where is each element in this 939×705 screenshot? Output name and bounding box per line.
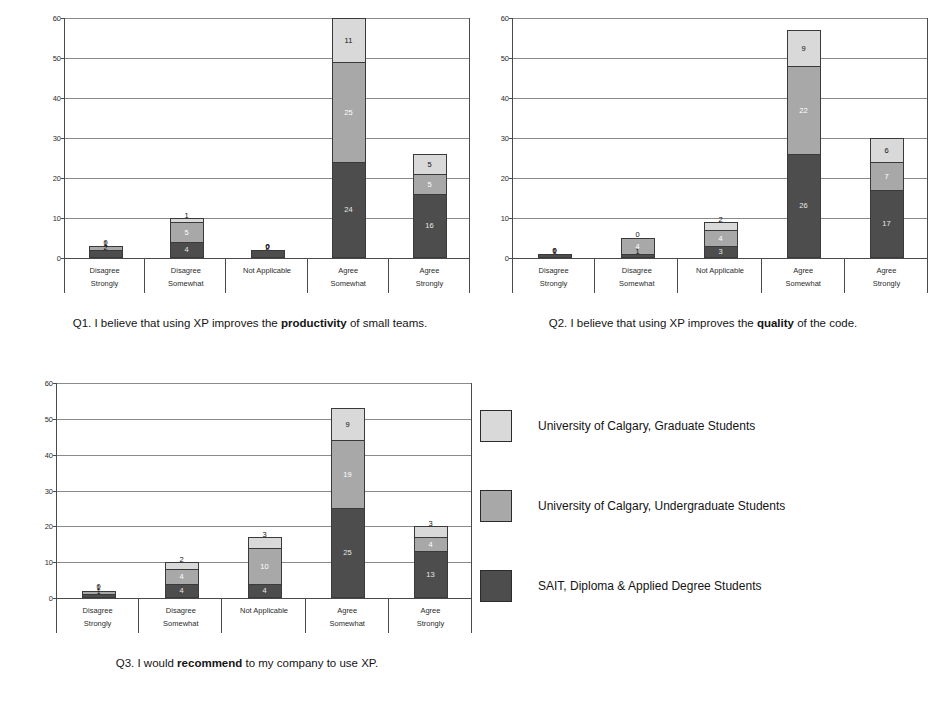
stacked-bar[interactable]: 3413 <box>414 526 448 598</box>
x-axis-label-1: DisagreeSomewhat <box>139 599 222 639</box>
bar-segment[interactable]: 10 <box>248 548 282 584</box>
bar-segment[interactable]: 4 <box>165 569 199 583</box>
x-axis-label-line1: Disagree <box>512 264 595 277</box>
bar-slot: 154 <box>146 18 227 258</box>
stacked-bar[interactable]: 002 <box>251 250 285 258</box>
bar-value-label: 17 <box>882 220 890 228</box>
bar-segment[interactable]: 2 <box>165 562 199 569</box>
bar-segment[interactable]: 2 <box>251 250 285 258</box>
bar-segment[interactable]: 5 <box>413 174 447 194</box>
x-axis-label-1: DisagreeSomewhat <box>595 259 678 299</box>
bar-value-label: 7 <box>884 173 888 181</box>
bar-value-label: 5 <box>427 161 431 169</box>
legend-item[interactable]: University of Calgary, Graduate Students <box>480 410 910 442</box>
x-axis-label-line1: Agree <box>306 604 389 617</box>
bar-group: 0121540021125245516 <box>65 18 470 258</box>
stacked-bar[interactable]: 5516 <box>413 154 447 258</box>
bar-value-label: 2 <box>718 216 722 224</box>
caption-q2: Q2. I believe that using XP improves the… <box>478 315 928 331</box>
bar-segment[interactable]: 13 <box>414 551 448 598</box>
bar-value-label: 26 <box>799 202 807 210</box>
x-axis-label-3: AgreeSomewhat <box>306 599 389 639</box>
bar-value-label: 16 <box>425 222 433 230</box>
bar-segment[interactable]: 3 <box>704 246 738 258</box>
bar-segment[interactable]: 3 <box>414 526 448 537</box>
bar-slot: 5516 <box>389 18 470 258</box>
bar-segment[interactable]: 22 <box>787 66 821 154</box>
stacked-bar[interactable]: 91925 <box>331 408 365 598</box>
stacked-bar[interactable]: 244 <box>165 562 199 598</box>
x-axis-label-line2: Somewhat <box>595 277 678 290</box>
bar-segment[interactable]: 1 <box>621 254 655 258</box>
y-tick-label-40: 40 <box>45 450 53 459</box>
bar-segment[interactable]: 11 <box>332 18 366 62</box>
swatch-sait <box>480 570 512 602</box>
stacked-bar[interactable]: 011 <box>82 591 116 598</box>
stacked-bar[interactable]: 041 <box>621 238 655 258</box>
y-tick-label-60: 60 <box>53 14 61 23</box>
x-axis-label-2: Not Applicable <box>678 259 761 299</box>
swatch-undergraduate <box>480 490 512 522</box>
bar-segment[interactable]: 2 <box>89 250 123 258</box>
bar-slot: 011 <box>57 383 140 598</box>
bar-segment[interactable]: 4 <box>704 230 738 246</box>
bar-segment[interactable]: 1 <box>538 254 572 258</box>
bar-segment[interactable]: 4 <box>414 537 448 551</box>
bar-value-label: 24 <box>344 206 352 214</box>
x-axis-label-line2: Strongly <box>389 617 472 630</box>
x-axis-label-3: AgreeSomewhat <box>762 259 845 299</box>
y-tick-label-40: 40 <box>53 94 61 103</box>
legend-item[interactable]: SAIT, Diploma & Applied Degree Students <box>480 570 910 602</box>
x-axis-label-line1: Not Applicable <box>226 264 307 277</box>
bar-segment[interactable]: 4 <box>170 242 204 258</box>
bar-segment[interactable]: 5 <box>413 154 447 174</box>
bar-segment[interactable]: 1 <box>82 594 116 598</box>
bar-slot: 041 <box>596 18 679 258</box>
bar-segment[interactable]: 25 <box>332 62 366 162</box>
bar-value-label: 4 <box>262 587 266 595</box>
bar-slot: 6717 <box>845 18 928 258</box>
chart-q2: 0102030405060001041243922266717 Disagree… <box>478 18 928 331</box>
bar-segment[interactable]: 2 <box>704 222 738 230</box>
y-tick-label-10: 10 <box>45 558 53 567</box>
x-axis-label-line2: Somewhat <box>308 277 389 290</box>
bar-slot: 92226 <box>762 18 845 258</box>
stacked-bar[interactable]: 112524 <box>332 18 366 258</box>
bar-value-label: 4 <box>718 235 722 243</box>
stacked-bar[interactable]: 012 <box>89 246 123 258</box>
bar-value-label: 4 <box>428 541 432 549</box>
stacked-bar[interactable]: 243 <box>704 222 738 258</box>
bar-segment[interactable]: 24 <box>332 162 366 258</box>
x-axis-label-line2: Strongly <box>845 277 928 290</box>
bar-slot: 002 <box>227 18 308 258</box>
bar-value-label: 25 <box>343 549 351 557</box>
bar-segment[interactable]: 26 <box>787 154 821 258</box>
stacked-bar[interactable]: 001 <box>538 254 572 258</box>
stacked-bar[interactable]: 154 <box>170 218 204 258</box>
x-axis-label-line1: Agree <box>389 604 472 617</box>
bar-value-label: 4 <box>184 246 188 254</box>
bar-segment[interactable]: 3 <box>248 537 282 548</box>
bar-segment[interactable]: 19 <box>331 440 365 508</box>
bar-segment[interactable]: 4 <box>248 584 282 598</box>
stacked-bar[interactable]: 3104 <box>248 537 282 598</box>
bar-segment[interactable]: 25 <box>331 508 365 598</box>
bar-slot: 012 <box>65 18 146 258</box>
bar-segment[interactable]: 7 <box>870 162 904 190</box>
bar-segment[interactable]: 9 <box>787 30 821 66</box>
x-axis-label-line2: Somewhat <box>139 617 222 630</box>
bar-segment[interactable]: 6 <box>870 138 904 162</box>
bar-value-label: 22 <box>799 107 807 115</box>
bar-segment[interactable]: 16 <box>413 194 447 258</box>
y-tick-label-20: 20 <box>53 174 61 183</box>
bar-segment[interactable]: 5 <box>170 222 204 242</box>
stacked-bar[interactable]: 92226 <box>787 30 821 258</box>
stacked-bar[interactable]: 6717 <box>870 138 904 258</box>
swatch-graduate <box>480 410 512 442</box>
legend-item[interactable]: University of Calgary, Undergraduate Stu… <box>480 490 910 522</box>
bar-value-label: 2 <box>265 244 269 252</box>
bar-segment[interactable]: 17 <box>870 190 904 258</box>
bar-segment[interactable]: 4 <box>165 584 199 598</box>
x-axis-label-4: AgreeStrongly <box>389 259 470 299</box>
bar-segment[interactable]: 9 <box>331 408 365 440</box>
